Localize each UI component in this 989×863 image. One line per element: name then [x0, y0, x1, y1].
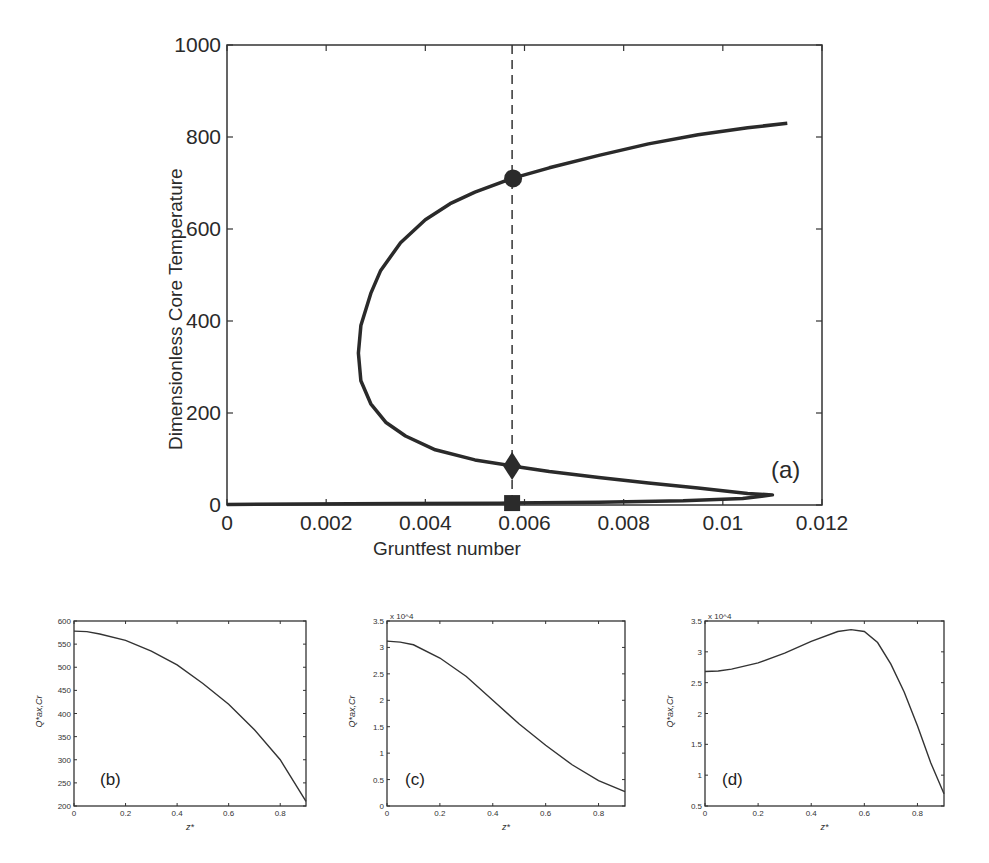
x-tick-label: 0.4	[487, 809, 499, 818]
y-axis-label: Q*ax,Cr	[347, 694, 357, 727]
circle-marker	[504, 169, 522, 187]
y-tick-label: 400	[186, 309, 221, 332]
figure-canvas: 00.0020.0040.0060.0080.010.0120200400600…	[0, 0, 989, 863]
subplot-d: 00.20.40.60.80.511.522.533.5x 10^4z*Q*ax…	[665, 612, 944, 832]
y-tick-label: 1	[698, 771, 703, 780]
y-tick-label: 250	[58, 779, 72, 788]
x-tick-label: 0.008	[597, 511, 650, 534]
y-tick-label: 1000	[174, 33, 221, 56]
solution-markers	[503, 169, 522, 511]
x-axis-label: z*	[819, 822, 829, 832]
diamond-marker	[503, 452, 521, 480]
y-tick-label: 2	[698, 710, 703, 719]
x-tick-label: 0	[703, 809, 708, 818]
square-marker	[504, 495, 520, 511]
x-tick-label: 0.002	[300, 511, 353, 534]
subplot-b: 00.20.40.60.8200250300350400450500550600…	[34, 617, 306, 832]
y-tick-label: 550	[58, 640, 72, 649]
x-tick-label: 0	[72, 809, 77, 818]
y-tick-label: 2.5	[373, 670, 385, 679]
x-tick-label: 0.4	[172, 809, 184, 818]
y-tick-label: 0.5	[691, 802, 703, 811]
x-tick-label: 0	[221, 511, 233, 534]
y-tick-label: 600	[186, 217, 221, 240]
x-axis-label: z*	[501, 822, 511, 832]
axis-ticks-a	[227, 45, 822, 505]
y-tick-label: 2	[380, 696, 385, 705]
y-tick-label: 0	[209, 493, 221, 516]
panel-label-c: (c)	[405, 770, 425, 789]
y-tick-label: 1.5	[373, 723, 385, 732]
x-tick-label: 0.6	[859, 809, 871, 818]
x-tick-label: 0.2	[753, 809, 765, 818]
x-tick-label: 0.01	[702, 511, 743, 534]
y-tick-label: 2.5	[691, 679, 703, 688]
y-tick-label: 0	[380, 802, 385, 811]
x-tick-label: 0.8	[275, 809, 287, 818]
x-tick-label: 0.8	[593, 809, 605, 818]
y-tick-label: 500	[58, 663, 72, 672]
y-tick-label: 3.5	[373, 617, 385, 626]
y-tick-label: 400	[58, 710, 72, 719]
x-tick-label: 0.2	[434, 809, 446, 818]
y-tick-label: 450	[58, 686, 72, 695]
x-tick-label: 0.6	[540, 809, 552, 818]
y-tick-label: 600	[58, 617, 72, 626]
plot-frame-a	[227, 45, 822, 505]
panel-label-a: (a)	[771, 456, 800, 483]
exponent-label: x 10^4	[708, 612, 732, 621]
panel-label-b: (b)	[100, 770, 121, 789]
y-tick-label: 300	[58, 756, 72, 765]
x-tick-label: 0.006	[498, 511, 551, 534]
x-tick-label: 0.2	[120, 809, 132, 818]
y-tick-label: 0.5	[373, 776, 385, 785]
y-tick-label: 800	[186, 125, 221, 148]
x-tick-label: 0.012	[796, 511, 849, 534]
y-tick-label: 3	[380, 643, 385, 652]
x-tick-label: 0	[385, 809, 390, 818]
x-tick-label: 0.004	[399, 511, 452, 534]
x-axis-label-a: Gruntfest number	[373, 538, 522, 559]
y-tick-label: 3	[698, 648, 703, 657]
panel-label-d: (d)	[722, 770, 743, 789]
y-tick-label: 200	[186, 401, 221, 424]
exponent-label: x 10^4	[390, 612, 414, 621]
x-axis-label: z*	[185, 822, 195, 832]
y-axis-label: Q*ax,Cr	[665, 694, 675, 727]
y-tick-label: 1.5	[691, 740, 703, 749]
y-tick-label: 200	[58, 802, 72, 811]
y-tick-label: 350	[58, 733, 72, 742]
main-chart-a: 00.0020.0040.0060.0080.010.0120200400600…	[165, 33, 848, 559]
y-tick-label: 1	[380, 749, 385, 758]
x-tick-label: 0.6	[223, 809, 235, 818]
x-tick-label: 0.8	[912, 809, 924, 818]
y-axis-label: Q*ax,Cr	[34, 694, 44, 727]
y-axis-label-a: Dimensionless Core Temperature	[165, 168, 186, 450]
x-tick-label: 0.4	[806, 809, 818, 818]
y-tick-label: 3.5	[691, 617, 703, 626]
subplot-c: 00.20.40.60.800.511.522.533.5x 10^4z*Q*a…	[347, 612, 625, 832]
